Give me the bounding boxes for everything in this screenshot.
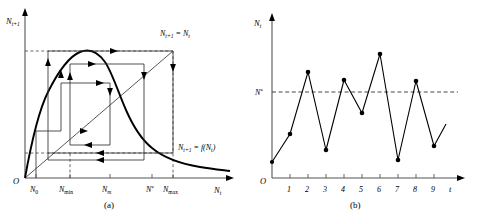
data-point-markers	[270, 52, 436, 164]
panel-a-caption: (a)	[104, 200, 114, 210]
y-axis-arrowhead-b	[269, 13, 275, 21]
equilibrium-label: N*	[254, 88, 263, 97]
x-axis-label-a: Nt	[213, 185, 222, 196]
tick-label-1: 1	[287, 185, 291, 194]
data-point	[270, 160, 274, 164]
tick-label-6: 6	[377, 185, 381, 194]
cobweb-trajectory	[36, 51, 173, 178]
x-tick-marks-b	[290, 174, 434, 178]
panel-a-plot: Nt+1 Nt O N0 Nmin Nm N* Nmax	[0, 0, 242, 200]
y-axis-label-a: Nt+1	[5, 16, 20, 27]
tick-label-nm: Nm	[101, 185, 111, 195]
data-point	[288, 132, 293, 137]
data-point	[396, 158, 401, 163]
data-point	[306, 70, 311, 75]
tick-label-4: 4	[341, 185, 345, 194]
panel-a: Nt+1 Nt O N0 Nmin Nm N* Nmax	[0, 0, 242, 224]
x-tick-marks-a	[36, 174, 173, 178]
data-point	[342, 78, 347, 83]
y-axis-label-b: Nt	[253, 18, 262, 29]
x-axis-arrowhead-a	[226, 175, 234, 181]
figure-container: Nt+1 Nt O N0 Nmin Nm N* Nmax	[0, 0, 485, 224]
tick-label-nmax: Nmax	[162, 185, 178, 195]
tick-label-7: 7	[395, 185, 400, 194]
tick-label-nmin: Nmin	[58, 185, 73, 195]
data-point	[378, 52, 383, 57]
map-curve-label: Nt+1 = f(Nt)	[177, 143, 216, 153]
panel-b: Nt t O N* 1 2 3 4 5 6 7 8 9	[242, 0, 485, 224]
tick-label-nstar: N*	[145, 185, 154, 194]
recruitment-curve	[25, 50, 230, 178]
tick-label-9: 9	[431, 185, 435, 194]
panel-b-caption: (b)	[350, 200, 361, 210]
tick-label-3: 3	[322, 185, 327, 194]
tick-label-5: 5	[359, 185, 363, 194]
tick-label-2: 2	[305, 185, 309, 194]
diagonal-line-label: Nt+1 = Nt	[159, 29, 190, 39]
x-axis-arrowhead-b	[457, 175, 465, 181]
y-axis-arrowhead-a	[22, 8, 28, 16]
data-point	[360, 111, 365, 116]
time-series-line	[272, 54, 446, 162]
data-point	[324, 148, 329, 153]
data-point	[432, 144, 437, 149]
origin-label-a: O	[13, 176, 19, 186]
x-axis-label-b: t	[449, 184, 452, 194]
tick-label-n0: N0	[29, 185, 38, 195]
origin-label-b: O	[260, 176, 266, 186]
axes-group-a	[22, 8, 234, 181]
data-point	[414, 79, 419, 84]
tick-label-8: 8	[413, 185, 417, 194]
panel-b-plot: Nt t O N* 1 2 3 4 5 6 7 8 9	[242, 0, 485, 200]
